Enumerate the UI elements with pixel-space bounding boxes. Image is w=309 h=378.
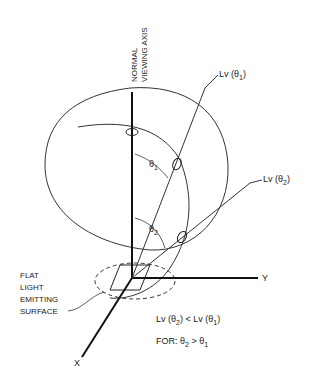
marker-theta1	[171, 157, 183, 171]
lv-theta1-label: Lv (θ1)	[219, 69, 246, 81]
x-axis-label: X	[74, 358, 80, 368]
y-axis-label: Y	[262, 273, 268, 283]
luminance-diagram: NORMAL VIEWING AXIS Lv (θ1) Lv (θ2) θ1 θ…	[0, 0, 309, 378]
surface-label-2: LIGHT	[20, 283, 44, 292]
luminance-lobe-inner	[78, 124, 189, 298]
lv-theta2-label: Lv (θ2)	[263, 174, 290, 186]
theta2-label: θ2	[149, 224, 158, 236]
for-condition-text: FOR: θ2 > θ1	[156, 336, 208, 348]
axis-label-line1: NORMAL	[130, 47, 139, 82]
ray-theta1	[132, 88, 205, 278]
surface-label-1: FLAT	[20, 271, 39, 280]
ray-theta1-leader	[205, 75, 218, 88]
base-ellipse	[95, 263, 175, 299]
luminance-lobe-outer	[45, 88, 228, 250]
surface-leader	[68, 292, 104, 311]
x-axis	[82, 278, 132, 357]
surface-label-4: SURFACE	[20, 307, 58, 316]
relation-text: Lv (θ2) < Lv (θ1)	[156, 314, 220, 326]
surface-label-3: EMITTING	[20, 295, 58, 304]
theta1-label: θ1	[149, 159, 158, 171]
axis-label-line2: VIEWING AXIS	[140, 27, 149, 82]
ray-theta2-leader	[250, 180, 262, 183]
